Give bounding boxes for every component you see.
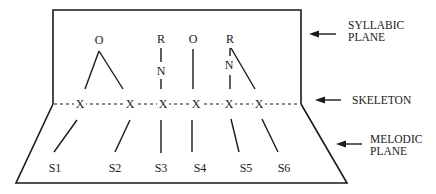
segment-s4: S4 [194,161,207,175]
syllabic-structure: O R N O R N [85,32,255,89]
segment-s6: S6 [278,161,291,175]
three-plane-diagram: X X X X X X O R N O R N S1 S2 S3 S4 [0,0,436,194]
rhyme-node-2: R [226,32,234,46]
association-line [231,48,255,89]
segment-s3: S3 [155,161,168,175]
syllabic-plane-label-line2: PLANE [348,31,385,43]
syllabic-plane-label-line1: SYLLABIC [348,19,405,31]
arrow-left-icon [309,31,319,38]
arrow-left-icon [315,97,325,104]
melodic-segments: S1 S2 S3 S4 S5 S6 [49,161,291,175]
melodic-plane-label-line2: PLANE [370,145,407,157]
syllabic-plane-frame [53,10,301,104]
rhyme-node-1: R [157,32,165,46]
association-line [99,51,123,89]
nucleus-node-1: N [157,64,166,78]
skeleton-slot-x6: X [255,97,264,111]
melodic-associations [54,119,278,153]
onset-node-1: O [95,33,104,47]
melodic-plane-frame [16,104,347,183]
skeleton-slot-x2: X [126,97,135,111]
skeleton-slot-x5: X [225,97,234,111]
skeleton-slot-x1: X [76,97,85,111]
melodic-plane-label-line1: MELODIC [370,133,423,145]
melodic-plane-annotation: MELODIC PLANE [336,133,423,157]
nucleus-node-2: N [225,58,234,72]
association-line [85,51,99,89]
skeleton-slot-x4: X [192,97,201,111]
skeleton-label: SKELETON [352,94,412,106]
skeleton-annotation: SKELETON [315,94,412,106]
segment-s2: S2 [109,161,122,175]
arrow-left-icon [336,141,346,148]
skeleton-slot-x3: X [159,97,168,111]
segment-s1: S1 [49,161,62,175]
onset-node-2: O [189,32,198,46]
syllabic-plane-annotation: SYLLABIC PLANE [309,19,405,43]
segment-s5: S5 [240,161,253,175]
